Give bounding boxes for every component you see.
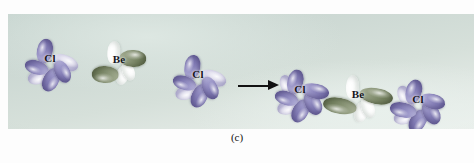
figure-caption: (c) xyxy=(0,131,474,143)
illustration-panel: Cl Be Cl xyxy=(8,14,474,129)
atom-label-be-1: Be xyxy=(113,54,126,65)
atom-label-cl-2: Cl xyxy=(192,69,203,80)
orbital-overlap-figure: Cl Be Cl xyxy=(0,0,474,163)
reaction-arrow xyxy=(238,80,280,92)
atom-label-cl-3: Cl xyxy=(294,84,305,95)
beryllium-1-sp-lobe-left xyxy=(91,66,119,84)
molecular-orbital-scene: Cl Be Cl xyxy=(8,14,474,129)
arrow-shaft xyxy=(238,85,271,87)
atom-label-cl-4: Cl xyxy=(412,94,423,105)
atom-label-cl-1: Cl xyxy=(44,53,55,64)
atom-label-be-2: Be xyxy=(352,89,365,100)
